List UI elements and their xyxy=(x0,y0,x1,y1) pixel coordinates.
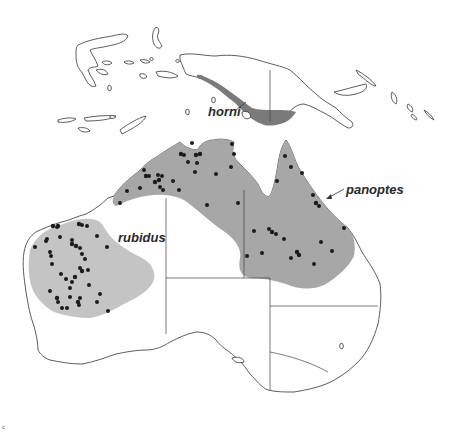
island-sumbawa xyxy=(58,118,76,122)
island-buru xyxy=(124,61,134,64)
island-timor xyxy=(120,116,146,134)
island-new-britain xyxy=(334,84,367,95)
island-sulawesi xyxy=(76,34,128,86)
island-small xyxy=(140,60,150,63)
island-small xyxy=(242,111,251,118)
island-sumba xyxy=(78,128,90,132)
island-solomons xyxy=(424,110,434,120)
island-solomons xyxy=(391,92,397,104)
island-small xyxy=(340,343,344,349)
island-small xyxy=(176,60,180,63)
label-horni: horni xyxy=(208,104,241,119)
panoptes-arrow-head xyxy=(326,194,332,199)
island-small xyxy=(108,85,112,91)
island-solomons xyxy=(411,114,417,120)
island-halmahera xyxy=(153,27,162,48)
label-panoptes: panoptes xyxy=(346,182,404,197)
island-small xyxy=(110,116,115,119)
island-small xyxy=(186,109,190,115)
label-rubidus: rubidus xyxy=(118,230,166,245)
island-ambon xyxy=(140,74,147,79)
island-small xyxy=(150,58,154,61)
island-solomons xyxy=(407,104,413,112)
distribution-map xyxy=(0,0,460,435)
corner-mark: c xyxy=(2,424,5,430)
island-seram xyxy=(156,71,178,78)
island-small xyxy=(212,97,216,103)
island-new-ireland xyxy=(356,70,376,86)
